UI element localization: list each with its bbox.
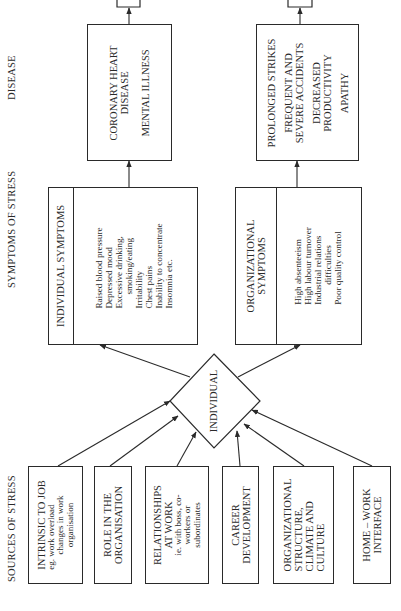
- source-relationships-at-work: RELATIONSHIPS AT WORK ie. with boss, co-…: [145, 466, 209, 584]
- organizational-disease-box: PROLONGED STRIKES FREQUENT AND SEVERE AC…: [256, 24, 359, 161]
- organizational-symptoms-list: High absenteeism High labour turnover In…: [294, 227, 344, 305]
- individual-symptoms-box: INDIVIDUAL SYMPTOMS Raised blood pressur…: [48, 187, 198, 345]
- source-career-development: CAREER DEVELOPMENT: [222, 466, 259, 584]
- source-role-in-organisation: ROLE IN THE ORGANISATION: [94, 466, 132, 584]
- header-disease: DISEASE: [6, 55, 17, 100]
- organizational-symptoms-box: ORGANIZATIONAL SYMPTOMS High absenteeism…: [235, 187, 362, 345]
- individual-disease-box: CORONARY HEART DISEASE MENTAL ILLNESS: [87, 24, 172, 161]
- individual-symptoms-title: INDIVIDUAL SYMPTOMS: [55, 205, 66, 327]
- source-intrinsic-to-job: INTRINSIC TO JOB eg. work overload chang…: [28, 466, 83, 584]
- organizational-symptoms-title: ORGANIZATIONAL SYMPTOMS: [245, 220, 267, 313]
- individual-symptoms-list: Raised blood pressure Depressed mood Exc…: [95, 223, 175, 308]
- source-home-work-interface: HOME – WORK INTERFACE: [353, 466, 391, 584]
- header-symptoms: SYMPTOMS OF STRESS: [6, 171, 17, 288]
- source-organizational-structure: ORGANIZATIONAL STRUCTURE, CLIMATE AND CU…: [273, 466, 334, 584]
- header-sources: SOURCES OF STRESS: [6, 475, 17, 582]
